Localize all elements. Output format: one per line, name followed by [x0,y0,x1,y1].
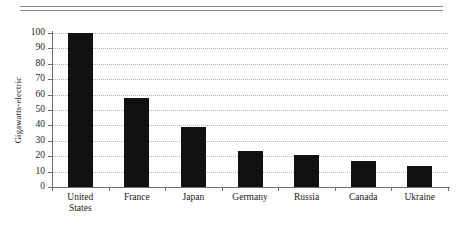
bar-chart-figure: Gigawatts-electric 010203040506070809010… [0,0,463,227]
category-label: United States [67,192,93,213]
bar [294,155,319,187]
bar-series [52,33,448,187]
x-tick [52,187,53,191]
x-axis-line [52,187,450,188]
x-tick [278,187,279,191]
y-tick-label-80: 80 [36,59,46,69]
y-tick-label-20: 20 [36,151,46,161]
bar [407,166,432,187]
bar [68,33,93,187]
bar [124,98,149,187]
bar [238,151,263,187]
bar [181,127,206,187]
category-label: Russia [294,192,319,203]
x-tick [109,187,110,191]
plot-area: 0102030405060708090100 [52,33,448,187]
y-tick-label-100: 100 [31,28,45,38]
y-tick-label-40: 40 [36,121,46,131]
category-label: France [124,192,150,203]
y-tick-label-70: 70 [36,74,46,84]
x-tick [222,187,223,191]
top-double-rule [20,6,443,11]
x-axis-category-labels: United StatesFranceJapanGermanyRussiaCan… [52,192,450,222]
bar [351,161,376,187]
y-tick-label-30: 30 [36,136,46,146]
y-axis-title: Gigawatts-electric [13,77,23,144]
x-tick [448,187,449,191]
category-label: Canada [349,192,378,203]
y-tick-label-90: 90 [36,44,46,54]
y-tick-label-50: 50 [36,105,46,115]
y-tick-label-0: 0 [40,182,45,192]
x-tick [335,187,336,191]
y-tick-label-60: 60 [36,90,46,100]
y-tick-label-10: 10 [36,167,46,177]
x-tick [391,187,392,191]
category-label: Ukraine [404,192,435,203]
category-label: Japan [183,192,205,203]
category-label: Germany [232,192,267,203]
x-tick [165,187,166,191]
